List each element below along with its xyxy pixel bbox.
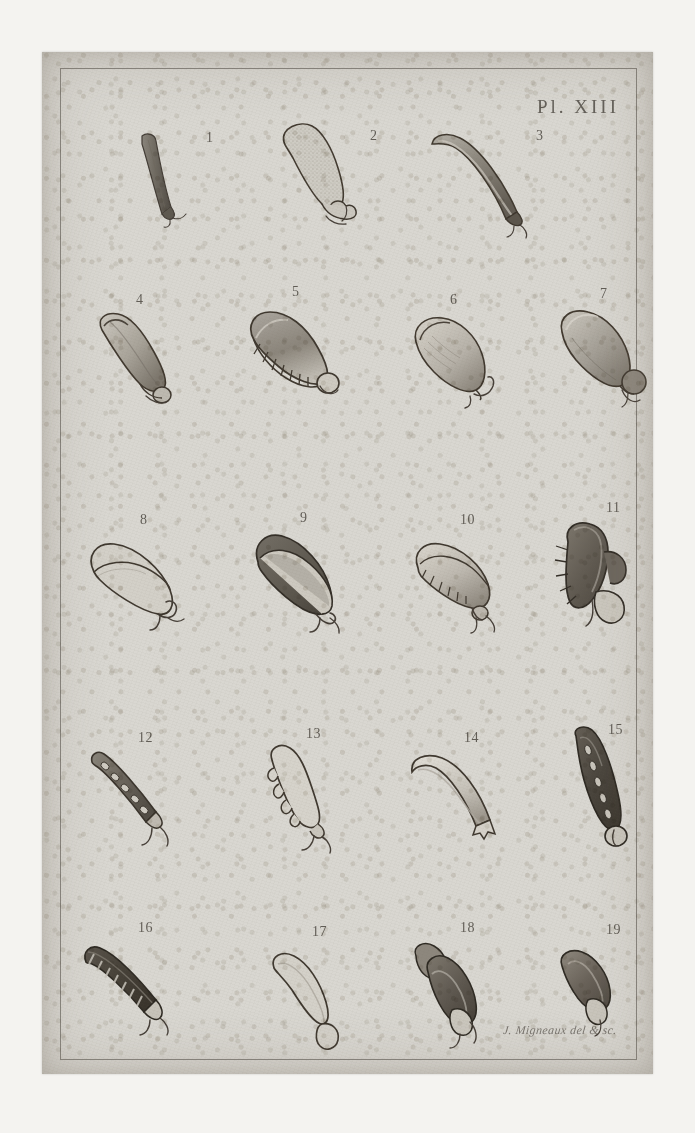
figure-17-artwork (258, 932, 378, 1047)
image-mount: Pl. XIII 1 2 (0, 0, 695, 1133)
plate-number-label: Pl. XIII (537, 96, 619, 118)
figure-8-artwork (76, 512, 216, 637)
figure-15-artwork (554, 724, 674, 854)
figure-4-artwork (76, 292, 206, 412)
figure-9-artwork (238, 510, 373, 638)
artist-signature: J. Migneaux del & sc. (503, 1023, 618, 1038)
figure-2-artwork (260, 120, 390, 232)
figure-13-artwork (250, 730, 380, 850)
figure-5-artwork (230, 282, 365, 407)
plate-paper: Pl. XIII 1 2 (42, 52, 653, 1074)
figure-11-artwork (534, 500, 664, 640)
figure-16-artwork (80, 924, 210, 1042)
figure-14-artwork (402, 736, 537, 851)
figure-7-artwork (542, 290, 667, 412)
figure-12-artwork (82, 732, 212, 850)
figure-6-artwork (394, 294, 529, 414)
figure-3-artwork (420, 124, 560, 236)
figure-10-artwork (398, 514, 533, 639)
figure-1-artwork (98, 122, 228, 232)
